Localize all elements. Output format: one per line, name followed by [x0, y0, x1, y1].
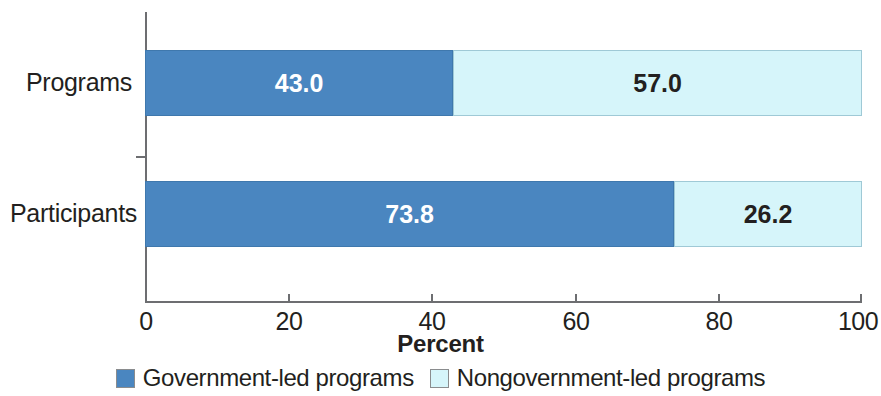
bar-segment-participants-government[interactable]: 73.8 — [145, 181, 674, 247]
bar-value-programs-nongovernment: 57.0 — [633, 69, 682, 98]
legend-swatch-nongovernment-icon — [430, 369, 449, 388]
x-axis-line — [145, 301, 862, 303]
bar-row-participants: 73.8 26.2 — [145, 181, 862, 247]
x-axis-tick-20 — [288, 294, 290, 303]
category-label-programs: Programs — [26, 68, 132, 97]
legend-label-government: Government-led programs — [143, 364, 414, 392]
chart-legend: Government-led programs Nongovernment-le… — [0, 364, 881, 392]
bar-segment-participants-nongovernment[interactable]: 26.2 — [674, 181, 862, 247]
bar-segment-programs-government[interactable]: 43.0 — [145, 50, 453, 116]
bar-value-participants-government: 73.8 — [385, 200, 434, 229]
x-axis-tick-60 — [575, 294, 577, 303]
legend-item-government[interactable]: Government-led programs — [116, 364, 414, 392]
x-axis-tick-80 — [718, 294, 720, 303]
bar-row-programs: 43.0 57.0 — [145, 50, 862, 116]
x-axis-tick-0 — [145, 294, 147, 303]
legend-item-nongovernment[interactable]: Nongovernment-led programs — [430, 364, 765, 392]
plot-area: 0 20 40 60 80 100 43.0 57.0 73.8 26.2 — [145, 12, 862, 302]
category-label-participants: Participants — [10, 199, 137, 228]
x-axis-tick-40 — [431, 294, 433, 303]
bar-segment-programs-nongovernment[interactable]: 57.0 — [453, 50, 862, 116]
y-axis-tick — [136, 156, 147, 158]
bar-value-programs-government: 43.0 — [275, 69, 324, 98]
stacked-bar-chart: Programs Participants 0 20 40 60 80 100 … — [0, 0, 881, 396]
legend-label-nongovernment: Nongovernment-led programs — [457, 364, 765, 392]
x-axis-title: Percent — [0, 330, 881, 358]
legend-swatch-government-icon — [116, 369, 135, 388]
x-axis-tick-100 — [860, 294, 862, 303]
bar-value-participants-nongovernment: 26.2 — [744, 200, 793, 229]
